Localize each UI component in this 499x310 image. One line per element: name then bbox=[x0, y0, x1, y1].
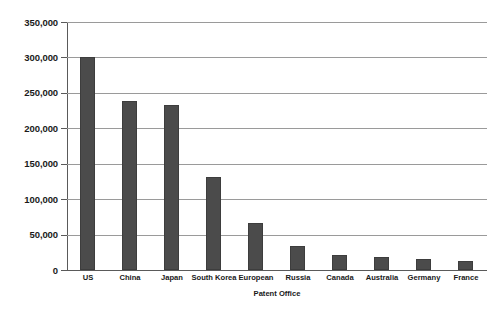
y-tick-label: 50,000 bbox=[4, 230, 58, 240]
bar bbox=[332, 255, 347, 270]
y-tick-label: 150,000 bbox=[4, 159, 58, 169]
y-tick-label: 350,000 bbox=[4, 18, 58, 28]
y-tick-label: 300,000 bbox=[4, 53, 58, 63]
x-tick-label: France bbox=[454, 274, 479, 282]
x-tick-label: Japan bbox=[161, 274, 183, 282]
bars-layer bbox=[67, 22, 487, 270]
x-tick-label: Russia bbox=[286, 274, 311, 282]
bar bbox=[290, 246, 305, 270]
y-tick-label: 100,000 bbox=[4, 195, 58, 205]
x-axis-tick-labels: US China Japan South Korea European Russ… bbox=[67, 274, 487, 288]
bar bbox=[248, 223, 263, 270]
x-tick-label: US bbox=[83, 274, 94, 282]
y-tick-label: 0 bbox=[4, 266, 58, 276]
y-tick-label: 200,000 bbox=[4, 124, 58, 134]
x-axis-baseline bbox=[67, 270, 487, 271]
bar bbox=[164, 105, 179, 270]
x-tick-label: Australia bbox=[366, 274, 399, 282]
x-tick-label: China bbox=[119, 274, 140, 282]
bar bbox=[374, 257, 389, 270]
plot-area bbox=[67, 22, 487, 270]
bar bbox=[80, 57, 95, 270]
bar bbox=[122, 101, 137, 270]
x-tick-label: South Korea bbox=[191, 274, 236, 282]
bar bbox=[206, 177, 221, 270]
x-axis-title: Patent Office bbox=[67, 290, 487, 298]
bar bbox=[458, 261, 473, 270]
bar-chart-figure: 350,000 300,000 250,000 200,000 150,000 … bbox=[0, 0, 499, 310]
x-tick-label: Canada bbox=[326, 274, 353, 282]
x-tick-label: European bbox=[238, 274, 273, 282]
y-tick-label: 250,000 bbox=[4, 88, 58, 98]
y-axis-tick-labels: 350,000 300,000 250,000 200,000 150,000 … bbox=[0, 0, 58, 310]
bar bbox=[416, 259, 431, 270]
x-tick-label: Germany bbox=[408, 274, 441, 282]
